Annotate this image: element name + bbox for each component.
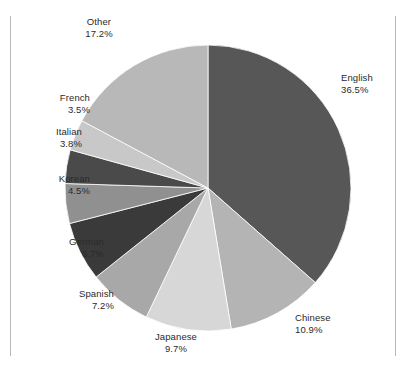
pie-label-korean-value: 4.5% <box>4 185 90 197</box>
pie-label-korean: Korean 4.5% <box>4 173 90 196</box>
pie-label-other-value: 17.2% <box>56 28 142 40</box>
pie-label-italian-name: Italian <box>4 126 82 138</box>
pie-label-german-name: German <box>8 236 104 248</box>
pie-label-other: Other 17.2% <box>56 16 142 39</box>
pie-label-english: English 36.5% <box>341 72 373 95</box>
pie-label-italian: Italian 3.8% <box>4 126 82 149</box>
pie-label-english-value: 36.5% <box>341 84 373 96</box>
pie-label-french-value: 3.5% <box>4 104 90 116</box>
pie-label-italian-value: 3.8% <box>4 138 82 150</box>
pie-label-chinese-name: Chinese <box>295 312 331 324</box>
pie-label-german: German 6.7% <box>8 236 104 259</box>
pie-label-french-name: French <box>4 92 90 104</box>
pie-label-spanish: Spanish 7.2% <box>14 288 114 311</box>
pie-label-other-name: Other <box>56 16 142 28</box>
pie-label-chinese: Chinese 10.9% <box>295 312 331 335</box>
pie-label-chinese-value: 10.9% <box>295 324 331 336</box>
pie-label-french: French 3.5% <box>4 92 90 115</box>
pie-label-japanese-value: 9.7% <box>155 343 197 355</box>
pie-label-spanish-name: Spanish <box>14 288 114 300</box>
pie-label-spanish-value: 7.2% <box>14 300 114 312</box>
pie-label-korean-name: Korean <box>4 173 90 185</box>
pie-label-japanese-name: Japanese <box>155 331 197 343</box>
pie-chart-figure: English 36.5% Chinese 10.9% Japanese 9.7… <box>0 0 406 371</box>
pie-label-english-name: English <box>341 72 373 84</box>
pie-label-japanese: Japanese 9.7% <box>155 331 197 354</box>
pie-label-german-value: 6.7% <box>8 248 104 260</box>
